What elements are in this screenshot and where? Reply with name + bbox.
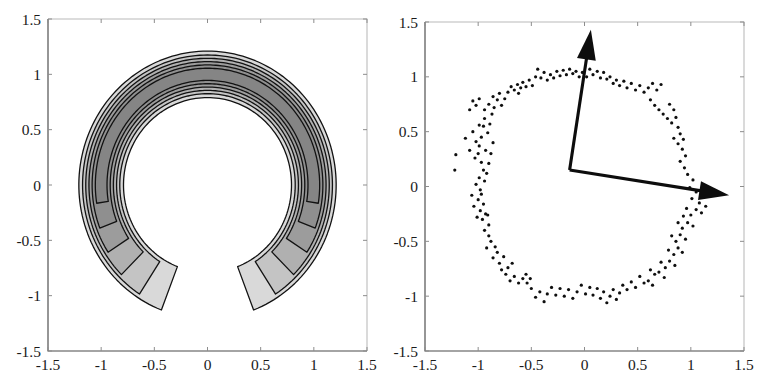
- y-tick-label: -0.5: [16, 232, 41, 249]
- figure-container: -1.5-1-0.500.511.5-1.5-1-0.500.511.5 -1.…: [0, 0, 768, 390]
- scatter-point: [672, 137, 675, 140]
- scatter-point: [657, 270, 660, 273]
- scatter-point: [588, 68, 591, 71]
- scatter-point: [546, 292, 549, 295]
- scatter-point: [482, 125, 485, 128]
- scatter-point: [698, 201, 701, 204]
- scatter-point: [651, 82, 654, 85]
- scatter-point: [625, 288, 628, 291]
- scatter-point: [605, 77, 608, 80]
- scatter-point: [625, 86, 628, 89]
- scatter-point: [673, 264, 676, 267]
- scatter-point: [493, 106, 496, 109]
- scatter-point: [504, 273, 507, 276]
- scatter-point: [489, 152, 492, 155]
- scatter-point: [479, 188, 482, 191]
- scatter-point: [549, 73, 552, 76]
- scatter-point: [676, 246, 679, 249]
- scatter-point: [662, 113, 665, 116]
- scatter-point: [534, 296, 537, 299]
- scatter-point: [550, 286, 553, 289]
- x-tick-label: -1: [95, 356, 108, 373]
- scatter-point: [486, 131, 489, 134]
- scatter-point: [615, 79, 618, 82]
- scatter-point: [487, 223, 490, 226]
- scatter-point: [480, 193, 483, 196]
- scatter-point: [674, 116, 677, 119]
- scatter-point: [634, 88, 637, 91]
- scatter-point: [657, 108, 660, 111]
- scatter-point: [470, 194, 473, 197]
- scatter-point: [480, 136, 483, 139]
- scatter-point: [490, 113, 493, 116]
- y-tick-label: 1: [410, 68, 418, 85]
- scatter-point: [642, 91, 645, 94]
- scatter-point: [634, 286, 637, 289]
- scatter-point: [472, 205, 475, 208]
- x-tick-label: 1: [310, 356, 318, 373]
- x-tick-label: 1.5: [357, 356, 377, 373]
- scatter-point: [521, 81, 524, 84]
- scatter-point: [536, 68, 539, 71]
- scatter-point: [599, 76, 602, 79]
- scatter-point: [681, 251, 684, 254]
- scatter-point: [479, 209, 482, 212]
- scatter-point: [453, 168, 456, 171]
- x-tick-label: 1.5: [734, 356, 754, 373]
- scatter-plot-svg: -1.5-1-0.500.511.5-1.5-1-0.500.511.5: [384, 0, 768, 390]
- scatter-point: [580, 284, 583, 287]
- scatter-point: [681, 148, 684, 151]
- scatter-point: [695, 208, 698, 211]
- scatter-point: [477, 152, 480, 155]
- scatter-point: [618, 291, 621, 294]
- contour-band-group: [79, 51, 336, 310]
- y-tick-label: -1: [405, 288, 418, 305]
- scatter-point: [647, 86, 650, 89]
- scatter-point: [542, 71, 545, 74]
- scatter-point: [483, 117, 486, 120]
- scatter-point: [672, 108, 675, 111]
- scatter-point: [653, 273, 656, 276]
- scatter-point: [546, 79, 549, 82]
- scatter-point: [655, 88, 658, 91]
- scatter-point: [612, 82, 615, 85]
- scatter-point: [647, 279, 650, 282]
- scatter-point: [679, 160, 682, 163]
- scatter-point: [528, 79, 531, 82]
- y-tick-label: 0.5: [399, 123, 419, 140]
- scatter-point: [571, 72, 574, 75]
- scatter-point: [524, 85, 527, 88]
- scatter-point: [519, 86, 522, 89]
- scatter-point: [542, 300, 545, 303]
- scatter-point: [477, 198, 480, 201]
- scatter-point: [563, 295, 566, 298]
- scatter-point: [486, 213, 489, 216]
- scatter-point: [491, 141, 494, 144]
- scatter-point: [630, 82, 633, 85]
- scatter-point: [663, 276, 666, 279]
- scatter-point: [668, 103, 671, 106]
- scatter-point: [599, 297, 602, 300]
- scatter-point: [552, 76, 555, 79]
- scatter-point: [478, 176, 481, 179]
- scatter-point: [612, 288, 615, 291]
- scatter-point: [487, 103, 490, 106]
- scatter-point: [562, 69, 565, 72]
- scatter-point: [676, 221, 679, 224]
- scatter-point: [686, 173, 689, 176]
- scatter-point: [659, 261, 662, 264]
- scatter-point: [691, 178, 694, 181]
- scatter-point: [494, 245, 497, 248]
- scatter-point: [482, 202, 485, 205]
- y-tick-label: -0.5: [393, 233, 418, 250]
- x-tick-label: 0: [581, 356, 589, 373]
- scatter-point: [464, 137, 467, 140]
- scatter-point: [674, 240, 677, 243]
- x-tick-label: 0.5: [628, 356, 648, 373]
- scatter-point: [524, 273, 527, 276]
- scatter-point: [565, 73, 568, 76]
- scatter-point: [485, 172, 488, 175]
- scatter-point: [621, 284, 624, 287]
- scatter-point: [506, 266, 509, 269]
- y-tick-label: -1.5: [393, 343, 418, 360]
